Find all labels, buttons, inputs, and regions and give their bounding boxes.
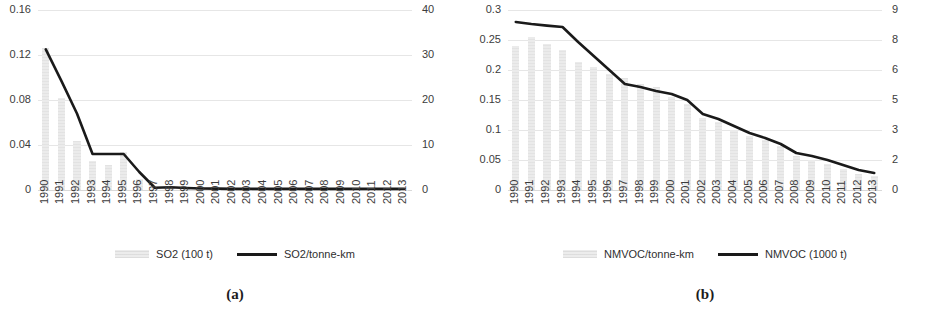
y-axis-left-tick: 0.15 [470, 94, 501, 105]
y-axis-left-tick: 0.25 [470, 34, 501, 45]
legend-label: NMVOC (1000 t) [765, 248, 847, 260]
plot-area [508, 10, 882, 190]
legend-item[interactable]: SO2/tonne-km [237, 248, 355, 260]
x-axis-tick: 2005 [743, 180, 754, 204]
y-axis-right-tick: 20 [422, 94, 434, 105]
panel-caption-b: (b) [470, 286, 940, 303]
y-axis-right-tick: 0 [422, 184, 428, 195]
x-axis-tick: 2001 [680, 180, 691, 204]
y-axis-left-tick: 0.12 [0, 49, 31, 60]
x-axis-tick: 2005 [273, 180, 284, 204]
x-axis-tick: 1996 [602, 180, 613, 204]
x-axis-tick: 1993 [86, 180, 97, 204]
x-axis-tick: 2010 [821, 180, 832, 204]
x-axis-tick: 2000 [195, 180, 206, 204]
line-series-svg [38, 10, 412, 190]
y-axis-right-tick: 10 [422, 139, 434, 150]
x-axis-tick: 2009 [805, 180, 816, 204]
legend-item[interactable]: SO2 (100 t) [115, 248, 213, 260]
legend-line-swatch-icon [718, 253, 758, 256]
legend-line-swatch-icon [237, 253, 277, 256]
legend-item[interactable]: NMVOC/tonne-km [563, 248, 694, 260]
plot-area [38, 10, 412, 190]
x-axis-tick: 1998 [634, 180, 645, 204]
x-axis-tick: 1992 [540, 180, 551, 204]
x-axis-tick: 1999 [649, 180, 660, 204]
x-axis-tick: 2010 [351, 180, 362, 204]
y-axis-left-tick: 0.16 [0, 4, 31, 15]
x-axis-tick: 1997 [618, 180, 629, 204]
y-axis-left-tick: 0.04 [0, 139, 31, 150]
x-axis-tick: 2008 [789, 180, 800, 204]
x-axis-tick: 2002 [696, 180, 707, 204]
x-axis-tick: 2003 [711, 180, 722, 204]
y-axis-left-tick: 0 [470, 184, 501, 195]
x-axis-tick: 2009 [335, 180, 346, 204]
x-axis-tick: 2007 [304, 180, 315, 204]
chart-plot-b: 00.050.10.150.20.250.3023568919901991199… [470, 0, 940, 250]
legend-bar-swatch-icon [115, 250, 149, 258]
line-path [46, 49, 404, 189]
y-axis-left-tick: 0 [0, 184, 31, 195]
x-axis-tick: 2013 [397, 180, 408, 204]
y-axis-left-tick: 0.1 [470, 124, 501, 135]
x-axis-tick: 1991 [54, 180, 65, 204]
legend-label: NMVOC/tonne-km [604, 248, 694, 260]
line-path [516, 22, 874, 173]
y-axis-left-tick: 0.08 [0, 94, 31, 105]
chart-legend-b: NMVOC/tonne-kmNMVOC (1000 t) [470, 248, 940, 260]
x-axis-tick: 2012 [852, 180, 863, 204]
y-axis-right-tick: 2 [892, 154, 898, 165]
x-axis-tick: 1991 [524, 180, 535, 204]
y-axis-right-tick: 9 [892, 4, 898, 15]
x-axis-tick: 1995 [117, 180, 128, 204]
x-axis-tick: 1993 [556, 180, 567, 204]
x-axis-tick: 2011 [836, 180, 847, 204]
x-axis-tick: 1994 [101, 180, 112, 204]
x-axis-tick: 2004 [257, 180, 268, 204]
x-axis-tick: 1999 [179, 180, 190, 204]
y-axis-right-tick: 40 [422, 4, 434, 15]
chart-panel-a: 00.040.080.120.1601020304019901991199219… [0, 0, 470, 315]
x-axis-tick: 2012 [382, 180, 393, 204]
x-axis-tick: 2008 [319, 180, 330, 204]
y-axis-right-tick: 5 [892, 94, 898, 105]
x-axis-tick: 1998 [164, 180, 175, 204]
x-axis-tick: 2002 [226, 180, 237, 204]
x-axis-tick: 2013 [867, 180, 878, 204]
x-axis-tick: 1992 [70, 180, 81, 204]
x-axis-tick: 2001 [210, 180, 221, 204]
line-series-svg [508, 10, 882, 190]
x-axis-tick: 2011 [366, 180, 377, 204]
x-axis-tick: 2006 [758, 180, 769, 204]
legend-bar-swatch-icon [563, 250, 597, 258]
y-axis-right-tick: 8 [892, 34, 898, 45]
legend-item[interactable]: NMVOC (1000 t) [718, 248, 847, 260]
chart-panel-b: 00.050.10.150.20.250.3023568919901991199… [470, 0, 940, 315]
x-axis-tick: 1994 [571, 180, 582, 204]
x-axis-tick: 2007 [774, 180, 785, 204]
legend-label: SO2/tonne-km [284, 248, 355, 260]
x-axis-tick: 1990 [39, 180, 50, 204]
x-axis-tick: 1990 [509, 180, 520, 204]
x-axis-tick: 1996 [132, 180, 143, 204]
y-axis-right-tick: 6 [892, 64, 898, 75]
panel-caption-a: (a) [0, 286, 470, 303]
figure-two-panel: 00.040.080.120.1601020304019901991199219… [0, 0, 940, 315]
legend-label: SO2 (100 t) [156, 248, 213, 260]
x-axis-tick: 2003 [241, 180, 252, 204]
y-axis-right-tick: 3 [892, 124, 898, 135]
chart-legend-a: SO2 (100 t)SO2/tonne-km [0, 248, 470, 260]
x-axis-tick: 2004 [727, 180, 738, 204]
x-axis-tick: 1995 [587, 180, 598, 204]
chart-plot-a: 00.040.080.120.1601020304019901991199219… [0, 0, 470, 250]
y-axis-left-tick: 0.3 [470, 4, 501, 15]
y-axis-right-tick: 0 [892, 184, 898, 195]
y-axis-right-tick: 30 [422, 49, 434, 60]
x-axis-tick: 2000 [665, 180, 676, 204]
x-axis-tick: 1997 [148, 180, 159, 204]
x-axis-tick: 2006 [288, 180, 299, 204]
y-axis-left-tick: 0.05 [470, 154, 501, 165]
y-axis-left-tick: 0.2 [470, 64, 501, 75]
